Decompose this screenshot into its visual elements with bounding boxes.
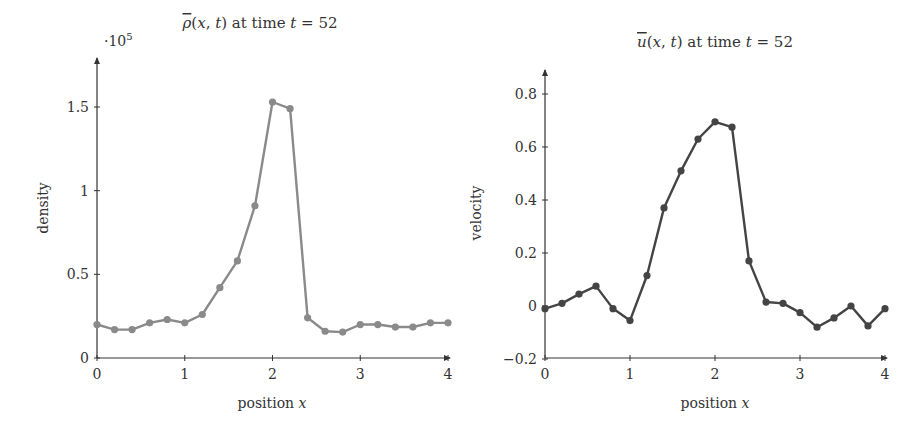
data-point [427, 319, 434, 326]
svg-text:2: 2 [711, 366, 720, 382]
x-axis-label: position x [681, 395, 750, 411]
svg-text:0.4: 0.4 [515, 192, 537, 208]
svg-text:0: 0 [528, 298, 537, 314]
svg-text:0: 0 [80, 350, 89, 366]
svg-text:1: 1 [180, 366, 189, 382]
data-point [830, 314, 837, 321]
data-point [558, 300, 565, 307]
y-axis-ticks: −0.200.20.40.60.8 [503, 86, 548, 367]
data-point [711, 118, 718, 125]
data-point [541, 305, 548, 312]
data-point [881, 305, 888, 312]
svg-text:4: 4 [444, 366, 453, 382]
data-point [745, 257, 752, 264]
data-point [181, 319, 188, 326]
data-point [779, 300, 786, 307]
y-axis-label: density [35, 182, 51, 234]
data-point [304, 314, 311, 321]
svg-text:0.2: 0.2 [515, 245, 537, 261]
data-point [234, 257, 241, 264]
data-point [322, 328, 329, 335]
x-axis-ticks: 01234 [93, 355, 453, 382]
svg-text:0: 0 [541, 366, 550, 382]
x-axis-label: position x [238, 395, 307, 411]
data-point [93, 321, 100, 328]
svg-text:0: 0 [93, 366, 102, 382]
data-point [677, 167, 684, 174]
chart-title: u(x, t) at time t = 52 [637, 33, 793, 51]
y-axis-label: velocity [468, 185, 484, 241]
series-line [545, 122, 885, 327]
data-point [357, 321, 364, 328]
data-point [129, 326, 136, 333]
data-point [592, 283, 599, 290]
data-point [728, 124, 735, 131]
svg-text:1: 1 [626, 366, 635, 382]
data-point [199, 311, 206, 318]
data-point [762, 298, 769, 305]
data-point [269, 98, 276, 105]
data-point [864, 322, 871, 329]
data-point [374, 321, 381, 328]
density-chart: ρ(x, t) at time t = 52 ·105 00.511.5 012… [35, 14, 453, 411]
x-axis-ticks: 01234 [541, 355, 890, 382]
svg-text:4: 4 [881, 366, 890, 382]
data-point [626, 317, 633, 324]
data-point [847, 302, 854, 309]
y-axis-multiplier: ·105 [104, 31, 133, 49]
chart-title: ρ(x, t) at time t = 52 [181, 14, 337, 32]
data-point [392, 323, 399, 330]
data-series-density [93, 98, 451, 335]
data-point [339, 328, 346, 335]
svg-text:0.5: 0.5 [67, 266, 89, 282]
svg-text:0.8: 0.8 [515, 86, 537, 102]
figure: ρ(x, t) at time t = 52 ·105 00.511.5 012… [0, 0, 919, 426]
data-series-velocity [541, 118, 888, 331]
svg-text:0.6: 0.6 [515, 139, 537, 155]
data-point [444, 319, 451, 326]
svg-text:3: 3 [356, 366, 365, 382]
data-point [660, 204, 667, 211]
data-point [813, 324, 820, 331]
data-point [609, 305, 616, 312]
series-line [97, 102, 448, 332]
data-point [286, 105, 293, 112]
data-point [796, 309, 803, 316]
data-point [409, 323, 416, 330]
data-point [164, 316, 171, 323]
data-point [643, 272, 650, 279]
svg-text:1.5: 1.5 [67, 99, 89, 115]
data-point [146, 319, 153, 326]
data-point [111, 326, 118, 333]
data-point [575, 290, 582, 297]
svg-text:2: 2 [268, 366, 277, 382]
svg-text:1: 1 [80, 183, 89, 199]
velocity-chart: u(x, t) at time t = 52 −0.200.20.40.60.8… [468, 33, 890, 411]
data-point [216, 284, 223, 291]
svg-text:3: 3 [796, 366, 805, 382]
data-point [251, 202, 258, 209]
svg-text:−0.2: −0.2 [503, 351, 537, 367]
data-point [694, 135, 701, 142]
